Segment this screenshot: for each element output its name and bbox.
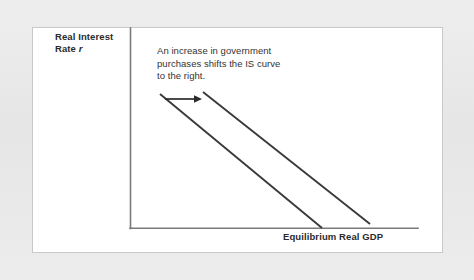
y-axis-label-line1: Real Interest — [55, 31, 113, 42]
is-curve-shifted — [203, 92, 370, 224]
figure-root: Real InterestRate r Equilibrium Real GDP… — [0, 0, 474, 280]
annotation-line-3: to the right. — [157, 70, 337, 83]
annotation-line-2: purchases shifts the IS curve — [157, 58, 337, 71]
annotation-callout: An increase in government purchases shif… — [157, 45, 337, 83]
is-curve-original — [160, 94, 322, 228]
y-axis-label: Real InterestRate r — [55, 31, 113, 55]
x-axis-label: Equilibrium Real GDP — [283, 231, 383, 243]
annotation-line-1: An increase in government — [157, 45, 337, 58]
y-axis-label-line2: Rate — [55, 43, 79, 54]
y-axis-label-variable: r — [79, 43, 83, 54]
